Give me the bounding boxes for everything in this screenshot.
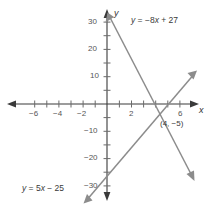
chart-canvas <box>0 0 210 208</box>
y-axis-label: y <box>114 9 119 18</box>
y-tick-label-10: 10 <box>90 72 99 80</box>
equation-label-descending: y = −8x + 27 <box>131 16 178 25</box>
y-tick-label--10: −10 <box>84 127 98 135</box>
chart-figure: y x −6 −4 −2 2 6 30 20 10 −10 −20 −30 y … <box>0 0 210 208</box>
intersection-point-label: (4, −5) <box>160 120 183 128</box>
y-tick-label--20: −20 <box>84 154 98 162</box>
equation-descending-suffix: + 27 <box>159 15 178 25</box>
x-tick-label--2: −2 <box>77 110 86 118</box>
y-axis-bottom-arrow-icon <box>104 192 111 201</box>
x-axis-label: x <box>199 106 204 115</box>
y-tick-label-30: 30 <box>88 18 97 26</box>
equation-ascending-body: = 5 <box>26 183 40 193</box>
equation-ascending-suffix: − 25 <box>45 183 64 193</box>
x-axis-left-arrow-icon <box>7 101 16 108</box>
series-line-descending <box>110 18 192 176</box>
x-tick-label-2: 2 <box>129 110 133 118</box>
x-tick-label--4: −4 <box>53 110 62 118</box>
y-tick-label-20: 20 <box>88 45 97 53</box>
x-tick-label--6: −6 <box>29 110 38 118</box>
series-ascending-end-arrow-icon <box>188 71 198 80</box>
equation-label-ascending: y = 5x − 25 <box>22 184 64 193</box>
y-tick-label--30: −30 <box>84 182 98 190</box>
x-tick-label-6: 6 <box>178 110 182 118</box>
series-line-ascending <box>89 76 193 198</box>
x-axis-right-arrow-icon <box>190 101 199 108</box>
equation-descending-body: = −8 <box>135 15 154 25</box>
